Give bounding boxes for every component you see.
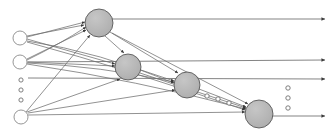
connection-edge bbox=[27, 79, 120, 112]
input-ellipsis-dot bbox=[19, 78, 23, 82]
hidden-ellipsis-dot bbox=[227, 101, 231, 105]
hidden-ellipsis-dot bbox=[216, 97, 220, 101]
connection-edge bbox=[27, 39, 115, 64]
input-ellipsis-dot bbox=[19, 88, 23, 92]
hidden-unit-node[interactable] bbox=[174, 72, 200, 98]
connection-edge bbox=[28, 90, 175, 113]
connection-edge bbox=[28, 112, 245, 115]
cascade-network-diagram bbox=[0, 0, 335, 132]
output-ellipsis-dot bbox=[286, 96, 290, 100]
hidden-unit-node[interactable] bbox=[245, 100, 273, 128]
hidden-ellipsis-dot bbox=[205, 94, 209, 98]
input-ellipsis-dot bbox=[19, 98, 23, 102]
output-ellipsis-dot bbox=[286, 86, 290, 90]
connection-edge bbox=[27, 25, 84, 36]
output-arrow-layer bbox=[28, 19, 325, 116]
network-canvas bbox=[0, 0, 335, 132]
connection-edge bbox=[141, 70, 174, 81]
output-arrow bbox=[28, 60, 325, 62]
input-unit-node[interactable] bbox=[13, 55, 27, 69]
output-ellipsis-dot bbox=[286, 106, 290, 110]
hidden-unit-node[interactable] bbox=[85, 9, 113, 37]
input-unit-node[interactable] bbox=[13, 31, 27, 45]
hidden-unit-node[interactable] bbox=[115, 54, 141, 80]
input-unit-node[interactable] bbox=[14, 110, 28, 124]
